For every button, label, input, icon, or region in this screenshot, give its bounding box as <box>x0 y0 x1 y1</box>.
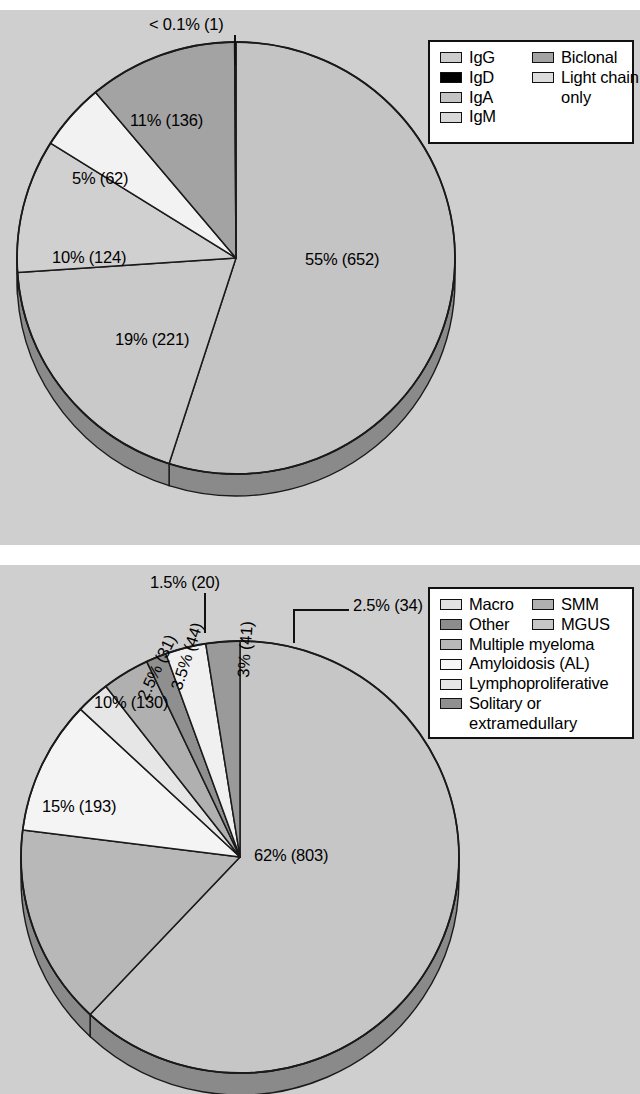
legend-item-multiple-myeloma[interactable]: Multiple myeloma <box>440 636 624 654</box>
legend-item-macro[interactable]: Macro <box>440 596 532 614</box>
leader-line-other-vertical <box>293 609 295 643</box>
legend-label-multiple-myeloma: Multiple myeloma <box>469 636 594 654</box>
legend-row: Other MGUS <box>440 616 624 634</box>
pie-chart-panel-bottom: 62% (803) 15% (193) 10% (130) 2.5% (31) … <box>0 565 640 1094</box>
slice-label-mgus: 62% (803) <box>254 846 328 865</box>
figure-root: 55% (652) 19% (221) 10% (124) 5% (62) 11… <box>0 0 640 1094</box>
slice-label-igm: 10% (124) <box>52 248 126 267</box>
legend-item-solitary[interactable]: Solitary or <box>440 695 624 713</box>
legend-item-smm[interactable]: SMM <box>532 596 599 614</box>
slice-label-igd: < 0.1% (1) <box>149 15 224 34</box>
slice-label-macro: 3% (41) <box>234 621 257 679</box>
legend-bottom: Macro SMM Other MGUS <box>428 587 634 739</box>
legend-row: IgG Biclonal <box>440 49 624 67</box>
slice-label-solitary: 1.5% (20) <box>150 573 220 592</box>
legend-row: Macro SMM <box>440 596 624 614</box>
legend-label-smm: SMM <box>561 596 599 614</box>
legend-swatch-other <box>440 619 462 630</box>
leader-line-solitary <box>204 593 206 633</box>
legend-label-igm: IgM <box>469 108 496 126</box>
legend-item-amyloidosis[interactable]: Amyloidosis (AL) <box>440 655 624 673</box>
slice-label-iga: 19% (221) <box>115 330 189 349</box>
legend-label-mgus: MGUS <box>561 616 610 634</box>
legend-swatch-mgus <box>532 619 554 630</box>
legend-label-light-chain-only-cont: only <box>532 89 591 107</box>
legend-swatch-biclonal <box>532 52 554 63</box>
legend-item-lymphoproliferative[interactable]: Lymphoproliferative <box>440 675 624 693</box>
legend-swatch-smm <box>532 599 554 610</box>
legend-row: Lymphoproliferative <box>440 675 624 693</box>
legend-label-solitary-cont: extramedullary <box>440 715 577 733</box>
legend-row: IgD Light chain <box>440 69 624 87</box>
legend-item-light-chain-only[interactable]: Light chain <box>532 69 639 87</box>
legend-row: extramedullary <box>440 715 624 733</box>
legend-swatch-amyloidosis <box>440 659 462 670</box>
legend-label-macro: Macro <box>469 596 514 614</box>
legend-label-biclonal: Biclonal <box>561 49 617 67</box>
slice-label-biclonal: 11% (136) <box>130 111 203 130</box>
legend-swatch-lymphoproliferative <box>440 679 462 690</box>
legend-swatch-igm <box>440 112 462 123</box>
legend-row: IgM <box>440 108 624 126</box>
legend-row: IgA only <box>440 89 624 107</box>
slice-label-amyloidosis: 10% (130) <box>94 693 168 712</box>
legend-item-biclonal[interactable]: Biclonal <box>532 49 617 67</box>
legend-label-other: Other <box>469 616 509 634</box>
slice-label-igg: 55% (652) <box>305 250 379 269</box>
legend-item-igm[interactable]: IgM <box>440 108 532 126</box>
legend-label-iga: IgA <box>469 89 493 107</box>
legend-top: IgG Biclonal IgD Light chain <box>428 40 634 144</box>
slice-label-multiple-myeloma: 15% (193) <box>42 797 116 816</box>
legend-row: Solitary or <box>440 695 624 713</box>
legend-item-igg[interactable]: IgG <box>440 49 532 67</box>
legend-swatch-multiple-myeloma <box>440 639 462 650</box>
legend-label-solitary: Solitary or <box>469 695 541 713</box>
legend-row: Multiple myeloma <box>440 636 624 654</box>
legend-item-igd[interactable]: IgD <box>440 69 532 87</box>
legend-label-lymphoproliferative: Lymphoproliferative <box>469 675 609 693</box>
legend-row: Amyloidosis (AL) <box>440 655 624 673</box>
legend-swatch-light-chain-only <box>532 72 554 83</box>
legend-swatch-igd <box>440 72 462 83</box>
legend-item-mgus[interactable]: MGUS <box>532 616 610 634</box>
leader-line-igd <box>234 35 236 65</box>
pie-chart-panel-top: 55% (652) 19% (221) 10% (124) 5% (62) 11… <box>0 10 640 545</box>
legend-label-light-chain-only: Light chain <box>561 69 639 87</box>
legend-swatch-igg <box>440 52 462 63</box>
slice-label-light-chain: 5% (62) <box>72 169 128 188</box>
slice-label-other: 2.5% (34) <box>353 596 423 615</box>
legend-label-igd: IgD <box>469 69 494 87</box>
legend-label-igg: IgG <box>469 49 495 67</box>
legend-label-amyloidosis: Amyloidosis (AL) <box>469 655 590 673</box>
leader-line-other-horizontal <box>293 609 349 611</box>
legend-item-iga[interactable]: IgA <box>440 89 532 107</box>
legend-swatch-iga <box>440 92 462 103</box>
legend-swatch-solitary <box>440 698 462 709</box>
legend-swatch-macro <box>440 599 462 610</box>
legend-item-other[interactable]: Other <box>440 616 532 634</box>
